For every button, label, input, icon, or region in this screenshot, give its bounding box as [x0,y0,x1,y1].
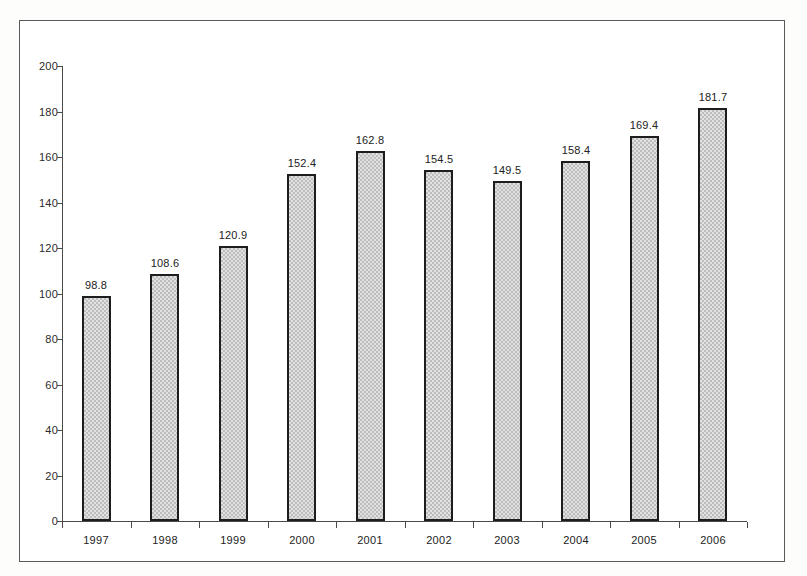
x-axis-category-label: 1999 [203,533,263,547]
y-axis-tick-mark [57,476,62,477]
y-axis-tick-label: 200 [0,60,58,72]
x-axis-tick-mark [199,522,200,528]
bar [561,161,590,521]
bar-data-label: 120.9 [203,229,263,242]
bar-data-label: 154.5 [409,153,469,166]
x-axis-category-label: 2005 [614,533,674,547]
x-axis-category-label: 2004 [546,533,606,547]
y-axis-tick-label: 100 [0,288,58,300]
bar-data-label: 158.4 [546,144,606,157]
x-axis-category-label: 2000 [272,533,332,547]
bar-data-label: 149.5 [477,164,537,177]
x-axis-category-label: 2002 [409,533,469,547]
y-axis-tick-mark [57,339,62,340]
y-axis-tick-label: 120 [0,242,58,254]
bar [219,246,248,521]
y-axis-tick-label: 180 [0,106,58,118]
bar [150,274,179,521]
y-axis-tick-label: 80 [0,333,58,345]
y-axis-tick-label: 40 [0,424,58,436]
y-axis-tick-mark [57,385,62,386]
y-axis-tick-mark [57,157,62,158]
chart-frame-border [19,20,785,562]
x-axis-tick-mark [131,522,132,528]
x-axis-tick-mark [610,522,611,528]
x-axis-tick-mark [336,522,337,528]
x-axis-category-label: 2006 [683,533,743,547]
bar [493,181,522,521]
x-axis-tick-mark [405,522,406,528]
bar [424,170,453,521]
y-axis-tick-mark [57,248,62,249]
x-axis-tick-mark [679,522,680,528]
x-axis-category-label: 1998 [135,533,195,547]
x-axis-category-label: 1997 [66,533,126,547]
y-axis-tick-mark [57,112,62,113]
x-axis-category-label: 2003 [477,533,537,547]
y-axis-tick-mark [57,203,62,204]
chart-figure: 200180160140120100806040200 98.8108.6120… [0,0,807,576]
bar-data-label: 98.8 [66,279,126,292]
bar-data-label: 108.6 [135,257,195,270]
y-axis-tick-label: 60 [0,379,58,391]
bar [698,108,727,521]
x-axis-end-cap [747,522,748,528]
bar-data-label: 162.8 [340,134,400,147]
bar [287,174,316,521]
bar-data-label: 181.7 [683,91,743,104]
y-axis-line [62,66,63,522]
x-axis-end-cap [62,522,63,528]
x-axis-tick-mark [268,522,269,528]
x-axis-tick-mark [542,522,543,528]
y-axis-tick-label: 160 [0,151,58,163]
x-axis-tick-mark [473,522,474,528]
bar [630,136,659,521]
bar-data-label: 152.4 [272,157,332,170]
bar-data-label: 169.4 [614,119,674,132]
y-axis-tick-mark [57,294,62,295]
x-axis-category-label: 2001 [340,533,400,547]
y-axis-tick-mark [57,430,62,431]
y-axis-tick-label: 140 [0,197,58,209]
bar [82,296,111,521]
y-axis-tick-label: 20 [0,470,58,482]
y-axis-tick-label: 0 [0,515,58,527]
y-axis-tick-mark [57,66,62,67]
bar [356,151,385,521]
